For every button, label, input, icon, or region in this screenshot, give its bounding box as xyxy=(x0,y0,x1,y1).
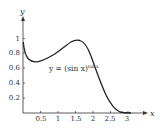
svg-text:1.5: 1.5 xyxy=(70,115,81,123)
y-axis-label: y xyxy=(19,7,25,16)
equation-label: y = (sin x)sin x xyxy=(48,64,99,74)
curve-line xyxy=(23,40,131,113)
svg-text:0.2: 0.2 xyxy=(9,94,20,102)
svg-text:2: 2 xyxy=(91,115,95,123)
y-axis-arrow-icon xyxy=(21,16,25,21)
svg-text:2.5: 2.5 xyxy=(104,115,115,123)
svg-text:1: 1 xyxy=(56,115,60,123)
svg-text:3: 3 xyxy=(125,115,129,123)
svg-text:0.5: 0.5 xyxy=(35,115,46,123)
svg-text:0.6: 0.6 xyxy=(9,64,21,72)
svg-text:0.8: 0.8 xyxy=(9,49,20,57)
y-tick-labels: 0.2 0.4 0.6 0.8 1 xyxy=(9,35,21,102)
x-tick-labels: 0.5 1 1.5 2 2.5 3 xyxy=(35,115,129,123)
chart: x y 0.5 1 1.5 2 2.5 3 0.2 0.4 0.6 0.8 1 … xyxy=(0,0,160,130)
svg-text:1: 1 xyxy=(16,35,20,43)
x-axis-label: x xyxy=(150,109,155,118)
x-axis-arrow-icon xyxy=(143,111,148,115)
svg-text:0.4: 0.4 xyxy=(9,79,21,87)
